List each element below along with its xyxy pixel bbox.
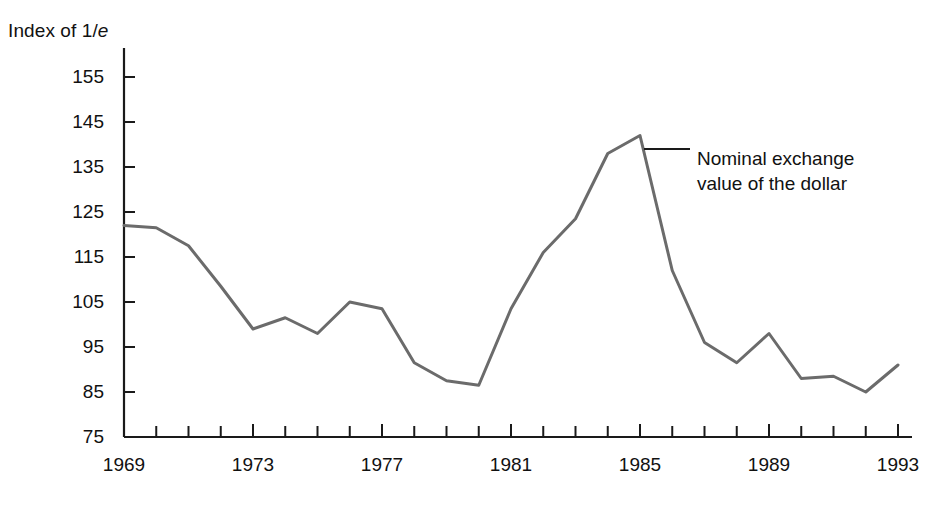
x-tick-label: 1981 [466,455,556,474]
x-tick-label: 1985 [595,455,685,474]
y-tick-label: 75 [40,427,104,446]
y-tick-label: 115 [40,247,104,266]
y-tick-label: 85 [40,382,104,401]
y-tick-label: 125 [40,202,104,221]
annotation-line-1: Nominal exchange [697,146,854,171]
exchange-rate-chart: Index of 1/e 155145135125115105958575 19… [0,0,941,506]
series-annotation: Nominal exchange value of the dollar [697,146,854,196]
x-tick-label: 1969 [79,455,169,474]
axis-ticks [124,77,898,437]
y-tick-label: 105 [40,292,104,311]
x-tick-label: 1977 [337,455,427,474]
x-tick-label: 1973 [208,455,298,474]
x-tick-label: 1993 [853,455,941,474]
chart-canvas [0,0,941,506]
y-tick-label: 135 [40,157,104,176]
annotation-line-2: value of the dollar [697,171,854,196]
y-tick-label: 95 [40,337,104,356]
x-tick-label: 1989 [724,455,814,474]
axes [124,48,912,437]
y-tick-label: 145 [40,112,104,131]
y-tick-label: 155 [40,67,104,86]
